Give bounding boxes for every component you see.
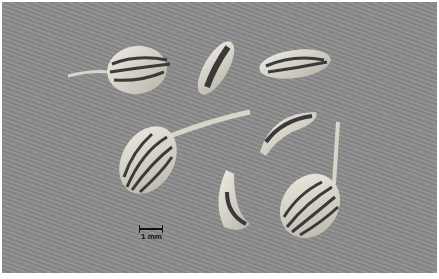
seeds-illustration	[2, 2, 437, 273]
scale-bar-tick-right	[162, 225, 163, 233]
seed-6	[218, 170, 250, 230]
scale-bar-line	[140, 228, 162, 230]
seed-3	[257, 45, 332, 83]
seed-2	[191, 36, 242, 100]
seed-5	[260, 112, 317, 156]
scale-bar: 1 mm	[139, 225, 165, 239]
seed-7	[268, 122, 353, 250]
seed-1	[68, 42, 170, 98]
seed-photo	[2, 2, 437, 273]
scale-bar-label: 1 mm	[141, 232, 162, 241]
